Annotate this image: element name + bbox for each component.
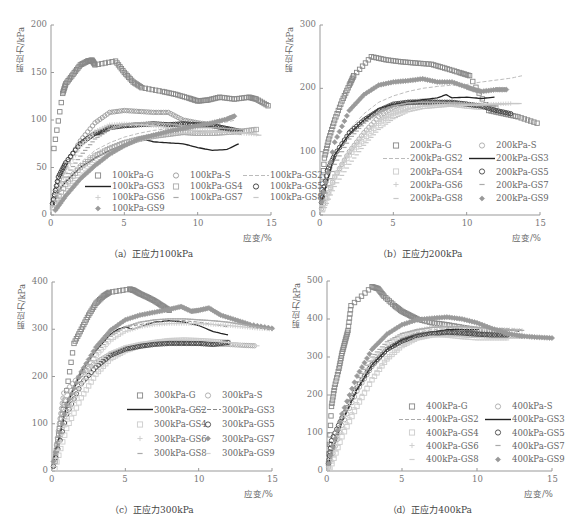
- legend-marker-icon: [484, 441, 512, 450]
- legend-label: 400kPa-GS7: [512, 441, 565, 451]
- x-tick-label: 0: [48, 218, 53, 228]
- legend-label: 400kPa-GS9: [512, 454, 565, 464]
- legend-item: 200kPa-GS3: [468, 153, 549, 163]
- legend-marker-icon: [484, 428, 512, 437]
- legend-label: 400kPa-GS5: [512, 428, 565, 438]
- legend-marker-icon: [382, 141, 410, 150]
- legend-label: 400kPa-G: [426, 401, 467, 411]
- x-tick-label: 15: [267, 474, 278, 484]
- legend-marker-icon: [468, 154, 496, 163]
- legend-marker-icon: [84, 171, 112, 180]
- legend-label: 100kPa-GS4: [190, 181, 243, 191]
- legend-marker-icon: [398, 402, 426, 411]
- legend-item: 100kPa-GS4: [162, 181, 243, 191]
- legend-marker-icon: [126, 405, 154, 414]
- legend-item: 100kPa-GS7: [162, 192, 243, 202]
- figure-caption: （c）正应力300kPa: [110, 503, 194, 516]
- x-axis-label: 应变/%: [244, 487, 273, 499]
- x-tick-label: 0: [324, 474, 329, 484]
- x-tick-label: 15: [535, 218, 546, 228]
- x-tick-label: 15: [266, 218, 277, 228]
- y-tick-label: 0: [318, 465, 323, 475]
- x-tick-label: 5: [399, 474, 404, 484]
- y-tick-label: 200: [32, 371, 48, 381]
- figure-caption: （b）正应力200kPa: [378, 247, 462, 260]
- legend-marker-icon: [162, 171, 190, 180]
- legend-label: 300kPa-GS5: [222, 419, 275, 429]
- legend-label: 200kPa-G: [410, 140, 451, 150]
- legend-label: 200kPa-GS4: [410, 167, 463, 177]
- legend-item: 100kPa-GS8: [242, 192, 323, 202]
- legend-marker-icon: [194, 420, 222, 429]
- legend-item: 400kPa-GS6: [398, 441, 479, 451]
- legend-item: 400kPa-GS8: [398, 454, 479, 464]
- legend-marker-icon: [382, 154, 410, 163]
- y-tick-label: 50: [36, 162, 47, 172]
- legend-marker-icon: [398, 428, 426, 437]
- legend-label: 100kPa-GS8: [270, 192, 323, 202]
- legend-item: 300kPa-G: [126, 390, 195, 400]
- y-tick-label: 100: [31, 114, 47, 124]
- x-tick-label: 5: [390, 218, 395, 228]
- y-tick-label: 100: [300, 146, 316, 156]
- legend-item: 100kPa-GS9: [84, 203, 165, 213]
- legend-item: 300kPa-S: [194, 390, 262, 400]
- legend-label: 300kPa-S: [222, 390, 262, 400]
- legend-item: 100kPa-GS3: [84, 181, 165, 191]
- legend-marker-icon: [468, 141, 496, 150]
- legend-marker-icon: [398, 441, 426, 450]
- legend-label: 100kPa-G: [112, 170, 153, 180]
- legend-item: 300kPa-GS3: [194, 405, 275, 415]
- legend-label: 200kPa-GS8: [410, 193, 463, 203]
- y-tick-label: 150: [31, 67, 47, 77]
- y-tick-label: 0: [42, 209, 47, 219]
- legend-marker-icon: [162, 193, 190, 202]
- y-tick-label: 200: [307, 389, 323, 399]
- x-tick-label: 10: [462, 218, 473, 228]
- legend-item: 100kPa-GS5: [242, 181, 323, 191]
- legend-label: 400kPa-GS8: [426, 454, 479, 464]
- legend-label: 300kPa-GS3: [222, 405, 275, 415]
- y-tick-label: 300: [300, 19, 316, 29]
- legend-item: 300kPa-GS7: [194, 434, 275, 444]
- legend-marker-icon: [468, 167, 496, 176]
- figure-caption: （a）正应力100kPa: [109, 247, 193, 260]
- x-tick-label: 10: [194, 474, 205, 484]
- legend-item: 200kPa-GS8: [382, 193, 463, 203]
- series-400kPa-G: [326, 285, 509, 466]
- x-tick-label: 10: [193, 218, 204, 228]
- legend-marker-icon: [84, 182, 112, 191]
- legend-label: 200kPa-GS5: [496, 167, 549, 177]
- legend-label: 400kPa-S: [512, 401, 552, 411]
- legend-item: 100kPa-GS6: [84, 192, 165, 202]
- legend-label: 100kPa-GS5: [270, 181, 323, 191]
- legend-item: 100kPa-S: [162, 170, 230, 180]
- legend-label: 200kPa-GS7: [496, 180, 549, 190]
- legend-item: 400kPa-S: [484, 401, 552, 411]
- legend-marker-icon: [484, 402, 512, 411]
- legend-item: 400kPa-G: [398, 401, 467, 411]
- legend-label: 300kPa-GS7: [222, 434, 275, 444]
- legend-marker-icon: [126, 420, 154, 429]
- y-tick-label: 100: [307, 427, 323, 437]
- figure-caption: （d）正应力400kPa: [388, 503, 472, 516]
- y-axis-label: 剪应力/kPa: [16, 284, 28, 329]
- legend-marker-icon: [468, 180, 496, 189]
- legend-marker-icon: [468, 194, 496, 203]
- legend-marker-icon: [484, 455, 512, 464]
- legend-label: 100kPa-S: [190, 170, 230, 180]
- legend-marker-icon: [398, 415, 426, 424]
- y-tick-label: 100: [32, 418, 48, 428]
- legend-item: 400kPa-GS9: [484, 454, 565, 464]
- legend-label: 100kPa-GS3: [112, 181, 165, 191]
- legend-item: 200kPa-GS9: [468, 193, 549, 203]
- legend-label: 300kPa-G: [154, 390, 195, 400]
- x-axis-label: 应变/%: [243, 231, 272, 243]
- y-axis-label: 剪应力/kPa: [284, 27, 296, 72]
- y-tick-label: 500: [307, 275, 323, 285]
- legend-label: 400kPa-GS2: [426, 414, 479, 424]
- legend-item: 200kPa-GS6: [382, 180, 463, 190]
- legend-item: 400kPa-GS5: [484, 428, 565, 438]
- legend-marker-icon: [194, 391, 222, 400]
- legend-marker-icon: [126, 391, 154, 400]
